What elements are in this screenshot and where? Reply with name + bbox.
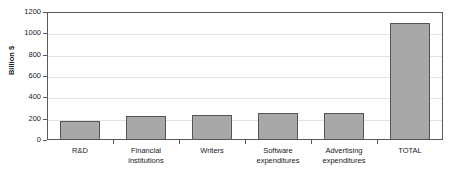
bar [192, 115, 232, 140]
y-tick-label: 1000 [1, 30, 41, 38]
x-tick-mark [113, 140, 114, 144]
bar [60, 121, 100, 140]
y-tick-label: 0 [1, 136, 41, 144]
y-tick-label: 200 [1, 115, 41, 123]
bar [390, 23, 430, 140]
y-tick-label: 800 [1, 51, 41, 59]
x-tick-mark [311, 140, 312, 144]
x-tick-label: Financial institutions [113, 146, 179, 165]
x-tick-mark [245, 140, 246, 144]
bar-chart: Billion $ 020040060080010001200 R&DFinan… [0, 0, 453, 183]
x-tick-label: TOTAL [377, 146, 443, 156]
x-tick-label: Writers [179, 146, 245, 156]
x-tick-mark [179, 140, 180, 144]
bar [258, 113, 298, 140]
bar [324, 113, 364, 140]
x-tick-label: Software expenditures [245, 146, 311, 165]
y-tick-mark [43, 140, 47, 141]
y-tick-label: 1200 [1, 8, 41, 16]
bar [126, 116, 166, 140]
y-tick-label: 400 [1, 94, 41, 102]
x-tick-label: Advertising expenditures [311, 146, 377, 165]
x-tick-label: R&D [47, 146, 113, 156]
x-tick-mark [377, 140, 378, 144]
bar-series [47, 12, 443, 140]
y-tick-label: 600 [1, 72, 41, 80]
